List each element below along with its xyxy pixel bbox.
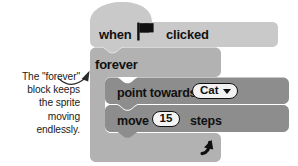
loop-arrow-icon xyxy=(196,139,215,159)
steps-label: steps xyxy=(190,114,222,128)
annotation-line-4: moving xyxy=(2,110,80,123)
chevron-down-icon xyxy=(223,89,231,94)
point-towards-target-dropdown[interactable]: Cat xyxy=(192,83,238,99)
clicked-label: clicked xyxy=(166,27,209,42)
move-label: move xyxy=(117,114,149,128)
steps-value: 15 xyxy=(160,113,173,125)
scratch-annotated-figure: when clicked forever point towards Cat m… xyxy=(0,0,298,166)
green-flag-icon xyxy=(136,22,156,41)
move-steps-number-input[interactable]: 15 xyxy=(152,111,180,127)
dropdown-value: Cat xyxy=(200,85,219,97)
when-label: when xyxy=(99,27,131,42)
annotation-callout-arrow-icon xyxy=(57,64,103,92)
annotation-line-5: endlessly. xyxy=(2,123,80,136)
point-towards-label: point towards xyxy=(117,86,196,100)
annotation-line-3: the sprite xyxy=(2,96,80,109)
